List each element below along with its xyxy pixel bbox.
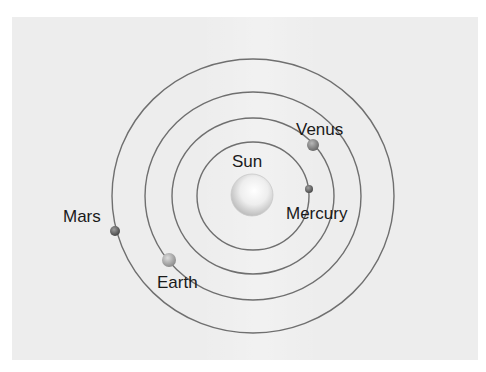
planet-venus: [307, 139, 319, 151]
mars-label: Mars: [63, 207, 101, 226]
planet-mars: [110, 226, 120, 236]
sun-label: Sun: [232, 152, 262, 171]
mercury-label: Mercury: [286, 204, 348, 223]
solar-system-diagram: Sun Mercury Venus Earth Mars: [0, 0, 486, 372]
earth-label: Earth: [157, 273, 198, 292]
planet-earth: [162, 253, 176, 267]
venus-label: Venus: [296, 120, 343, 139]
sun-body: [231, 174, 273, 216]
planet-mercury: [305, 185, 313, 193]
